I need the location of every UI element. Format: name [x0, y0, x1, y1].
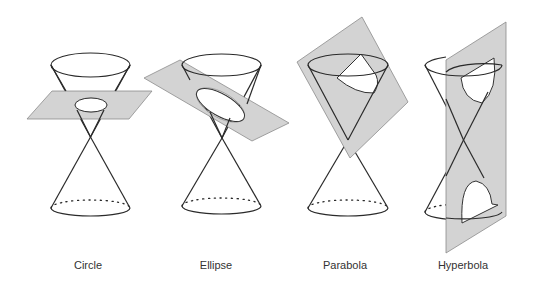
cone-top-rim-back [425, 57, 446, 65]
circle-section [75, 98, 107, 112]
cone-top-rim [182, 54, 261, 76]
panel-hyperbola: Hyperbola [425, 22, 506, 271]
label-hyperbola: Hyperbola [438, 259, 489, 271]
label-ellipse: Ellipse [200, 259, 232, 271]
cone-edge [308, 140, 348, 208]
cone-edge [91, 137, 131, 208]
cone-base-back-ellipse [182, 198, 261, 206]
cone-edge [222, 138, 261, 206]
cone-base-front-parabola [308, 208, 388, 216]
cone-base-front-ellipse [182, 206, 261, 214]
cone-top-rim [51, 53, 130, 77]
cone-base-back-parabola [308, 200, 388, 208]
cone-edge [51, 137, 91, 208]
cone-base-front-circle [51, 208, 130, 216]
cone-edge [182, 138, 222, 206]
cone-base-back-circle [51, 200, 130, 208]
conic-sections-diagram: Circle Ellipse Parabola [0, 0, 534, 284]
label-circle: Circle [74, 259, 102, 271]
panel-parabola: Parabola [297, 17, 408, 271]
panel-ellipse: Ellipse [144, 54, 289, 271]
label-parabola: Parabola [323, 259, 368, 271]
panel-circle: Circle [27, 53, 152, 271]
